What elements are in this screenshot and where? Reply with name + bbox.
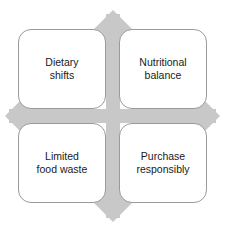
- quadrant-box-top-left[interactable]: Dietary shifts: [18, 29, 106, 109]
- four-quadrant-diagram: Dietary shifts Nutritional balance Limit…: [0, 0, 225, 232]
- quadrant-label-top-left: Dietary shifts: [41, 56, 82, 82]
- quadrant-box-bottom-left[interactable]: Limited food waste: [18, 123, 106, 203]
- quadrant-label-bottom-left: Limited food waste: [33, 150, 92, 176]
- quadrant-label-bottom-right: Purchase responsibly: [132, 150, 193, 176]
- quadrant-label-top-right: Nutritional balance: [135, 56, 190, 82]
- quadrant-box-top-right[interactable]: Nutritional balance: [119, 29, 207, 109]
- quadrant-box-bottom-right[interactable]: Purchase responsibly: [119, 123, 207, 203]
- quadrant-grid: Dietary shifts Nutritional balance Limit…: [18, 29, 207, 203]
